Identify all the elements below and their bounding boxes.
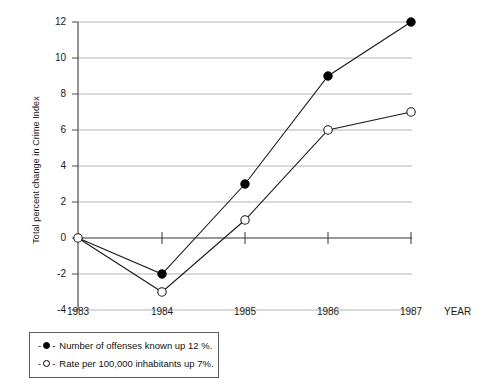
y-tick-label-2: 2 bbox=[40, 196, 66, 207]
y-tick-label-minus2: -2 bbox=[40, 268, 66, 279]
legend-label-offenses: Number of offenses known up 12 %. bbox=[59, 340, 212, 351]
y-tick-label-0: 0 bbox=[40, 232, 66, 243]
gridlines bbox=[78, 22, 412, 310]
data-point-offenses-1987 bbox=[407, 18, 415, 26]
data-point-rate-1985 bbox=[241, 216, 249, 224]
open-circle-icon bbox=[43, 360, 50, 367]
y-tick-label-4: 4 bbox=[40, 160, 66, 171]
y-tick-label-8: 8 bbox=[40, 88, 66, 99]
x-tick-label-1984: 1984 bbox=[137, 306, 187, 317]
legend-label-rate: Rate per 100,000 inhabitants up 7%. bbox=[59, 358, 213, 369]
legend-item-rate: - - Rate per 100,000 inhabitants up 7%. bbox=[37, 358, 214, 369]
x-tick-label-1986: 1986 bbox=[303, 306, 353, 317]
legend-dash-left-0: - bbox=[38, 340, 41, 351]
data-point-offenses-1986 bbox=[324, 72, 332, 80]
data-point-offenses-1985 bbox=[241, 180, 249, 188]
filled-circle-icon bbox=[43, 342, 50, 349]
crime-index-line-chart: Total percent change in Crime Index 12 1… bbox=[0, 0, 499, 387]
chart-legend: - - Number of offenses known up 12 %. - … bbox=[29, 332, 219, 378]
data-point-offenses-1984 bbox=[158, 270, 166, 278]
data-point-origin-1983 bbox=[74, 234, 82, 242]
y-tick-label-12: 12 bbox=[40, 16, 66, 27]
x-axis-title: YEAR bbox=[444, 306, 471, 317]
y-tick-label-10: 10 bbox=[40, 52, 66, 63]
series-offenses-markers bbox=[158, 18, 415, 278]
data-point-rate-1986 bbox=[324, 126, 332, 134]
legend-dash-right-0: - bbox=[52, 340, 55, 351]
data-point-rate-1987 bbox=[407, 108, 415, 116]
legend-dash-right-1: - bbox=[52, 358, 55, 369]
x-tick-label-1985: 1985 bbox=[220, 306, 270, 317]
y-axis-ticks bbox=[72, 22, 78, 310]
legend-item-offenses: - - Number of offenses known up 12 %. bbox=[37, 340, 212, 351]
x-tick-label-1983: 1983 bbox=[53, 306, 103, 317]
plot-area bbox=[0, 0, 499, 387]
data-point-rate-1984 bbox=[158, 288, 166, 296]
x-tick-label-1987: 1987 bbox=[386, 306, 436, 317]
legend-dash-left-1: - bbox=[38, 358, 41, 369]
y-tick-label-6: 6 bbox=[40, 124, 66, 135]
